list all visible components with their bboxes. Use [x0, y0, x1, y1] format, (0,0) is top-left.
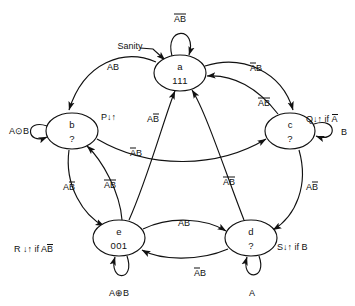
edge-label-e-to-b: AB — [104, 179, 116, 190]
edge-label-e-to-a: AB — [147, 113, 159, 124]
edge-d-to-a — [192, 90, 244, 220]
state-code-c: ? — [287, 133, 293, 144]
edge-label-b-to-e: AB — [63, 181, 75, 192]
loop-a-term-b: B — [180, 14, 186, 24]
output-label-e: R ↓↑ if AB — [14, 243, 53, 254]
ab-term: AB — [178, 218, 190, 228]
output-e-text: R ↓↑ if A — [14, 244, 47, 254]
state-label-b: b — [69, 119, 74, 130]
state-label-a: a — [177, 61, 183, 72]
self-loop-d — [246, 256, 261, 275]
self-loop-label-a: AB — [174, 13, 186, 24]
edge-c-to-a — [207, 76, 278, 114]
edge-label-d-to-a: AB — [223, 176, 235, 187]
self-loop-label-e: A⊕B — [109, 289, 129, 298]
term-b: B — [256, 63, 262, 73]
state-label-c: c — [288, 119, 293, 130]
edge-label-a-to-b: AB — [107, 63, 119, 72]
term-b-bar: B — [264, 98, 270, 108]
state-node-b[interactable]: b ? — [46, 113, 98, 149]
output-label-d: S↓↑ if B — [277, 243, 308, 252]
self-loop-label-c: B — [341, 128, 347, 137]
output-c-text: Q↓↑ if — [306, 114, 332, 124]
state-node-e[interactable]: e 001 — [93, 220, 145, 256]
output-label-b: P↓↑ — [101, 113, 116, 122]
edge-label-c-to-a: AB — [258, 97, 270, 108]
edge-label-a-to-c: AB — [250, 62, 262, 73]
edge-c-to-d — [273, 150, 302, 230]
self-loop-a — [171, 33, 191, 56]
state-diagram-figure: a 111 b ? c ? d ? e 001 — [0, 0, 355, 306]
self-loop-label-d: A — [249, 289, 255, 298]
edge-label-b-to-c: AB — [130, 147, 142, 158]
term-b-bar: B — [110, 180, 116, 190]
term-b-bar: B — [69, 182, 75, 192]
state-label-d: d — [248, 226, 253, 237]
self-loop-label-b: A⊙B — [9, 127, 29, 136]
state-node-a[interactable]: a 111 — [154, 55, 206, 91]
state-code-e: 001 — [110, 240, 127, 251]
sanity-reset-label: Sanity — [117, 42, 142, 51]
term-b: B — [200, 268, 206, 278]
term-b-bar: B — [153, 114, 159, 124]
state-label-e: e — [116, 226, 121, 237]
edge-d-to-e — [142, 249, 228, 258]
term-b: B — [136, 148, 142, 158]
term-b-bar: B — [312, 182, 318, 192]
self-loop-e — [114, 256, 129, 276]
ab-term: AB — [107, 62, 119, 72]
edge-label-d-to-e: AB — [194, 267, 206, 278]
output-c-cond: A — [332, 114, 338, 124]
self-loop-b — [30, 125, 47, 139]
state-node-d[interactable]: d ? — [225, 220, 277, 256]
term-b-bar: B — [229, 177, 235, 187]
output-label-c: Q↓↑ if A — [306, 113, 338, 124]
fsm-canvas: a 111 b ? c ? d ? e 001 — [0, 0, 355, 306]
edge-label-e-to-d: AB — [178, 219, 190, 228]
state-code-a: 111 — [172, 75, 188, 86]
output-e-cond: B — [47, 244, 53, 254]
state-code-d: ? — [248, 240, 254, 251]
edge-b-to-c — [97, 139, 266, 162]
state-code-b: ? — [69, 133, 75, 144]
self-loop-c — [314, 123, 332, 138]
edge-label-c-to-d: AB — [306, 181, 318, 192]
